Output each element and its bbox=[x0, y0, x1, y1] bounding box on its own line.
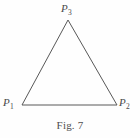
vertex-label-p1-base: P bbox=[3, 96, 10, 108]
vertex-label-p2-base: P bbox=[119, 96, 126, 108]
vertex-label-p2-subscript: 2 bbox=[126, 102, 130, 111]
figure-container: P3 P1 P2 Fig. 7 bbox=[0, 0, 140, 138]
triangle-outline bbox=[22, 20, 117, 105]
vertex-label-p2: P2 bbox=[119, 97, 129, 108]
vertex-label-p1: P1 bbox=[3, 97, 13, 108]
vertex-label-p3-base: P bbox=[61, 2, 68, 14]
figure-caption: Fig. 7 bbox=[0, 119, 140, 131]
vertex-label-p3-subscript: 3 bbox=[68, 8, 72, 17]
vertex-label-p1-subscript: 1 bbox=[10, 102, 14, 111]
vertex-label-p3: P3 bbox=[61, 3, 71, 14]
